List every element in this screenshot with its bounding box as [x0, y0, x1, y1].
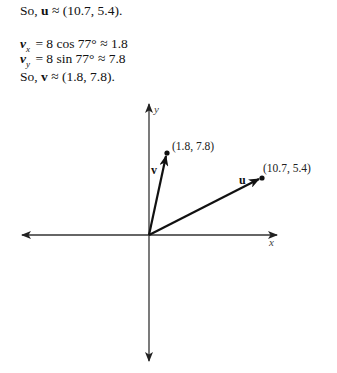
v-point-label: (1.8, 7.8): [172, 140, 214, 153]
vector-graph: x y v (1.8, 7.8) u (10.7, 5.4): [0, 0, 337, 373]
u-point-label: (10.7, 5.4): [263, 162, 311, 175]
vector-v: v (1.8, 7.8): [149, 140, 214, 235]
v-vector-label: v: [151, 163, 157, 177]
u-endpoint-dot: [259, 175, 264, 180]
x-axis-label: x: [268, 236, 274, 248]
vector-u: u (10.7, 5.4): [149, 162, 311, 235]
y-axis-label: y: [153, 103, 159, 115]
v-endpoint-dot: [164, 150, 169, 155]
u-vector-label: u: [239, 173, 246, 187]
